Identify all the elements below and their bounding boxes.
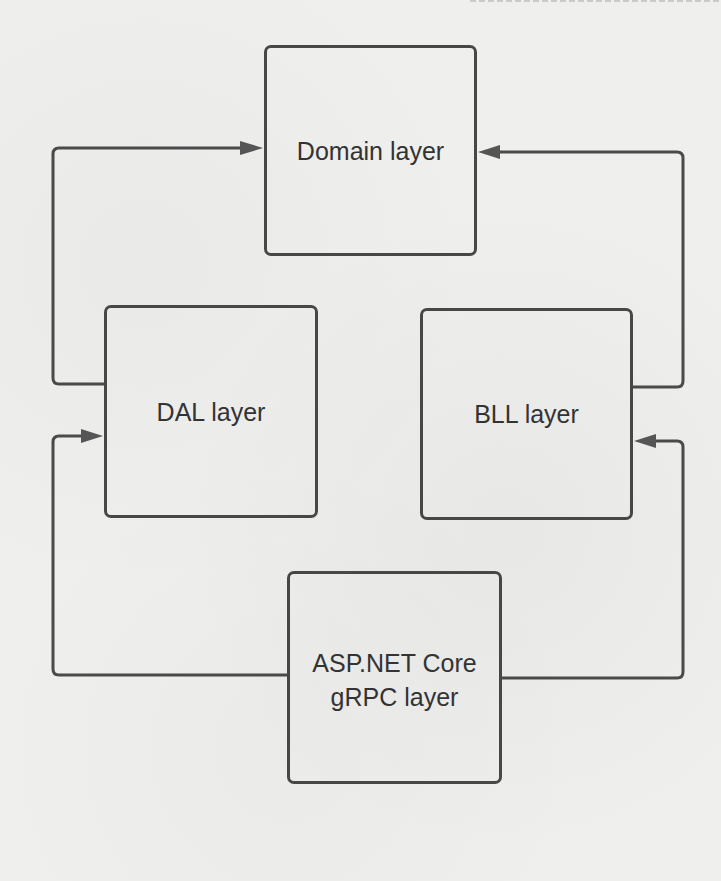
aspnet-grpc-layer-box: ASP.NET Core gRPC layer [287, 571, 502, 784]
domain-layer-label: Domain layer [297, 134, 444, 168]
arrowhead-icon [634, 434, 656, 448]
bll-layer-label: BLL layer [474, 397, 579, 431]
bll-layer-box: BLL layer [420, 308, 633, 520]
arrowhead-icon [240, 141, 263, 155]
aspnet-grpc-layer-label: ASP.NET Core gRPC layer [312, 646, 476, 714]
dal-layer-label: DAL layer [157, 395, 266, 429]
domain-layer-box: Domain layer [264, 45, 477, 256]
dal-layer-box: DAL layer [104, 305, 318, 518]
arrowhead-icon [478, 145, 500, 159]
arrowhead-icon [81, 429, 103, 443]
